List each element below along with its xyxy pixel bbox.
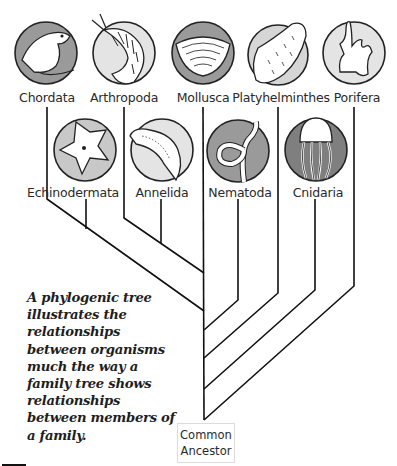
- echinodermata-starfish-icon: [54, 119, 116, 181]
- chordata-frog-icon: [15, 22, 77, 84]
- trunk: [203, 107, 204, 420]
- label-porifera: Porifera: [334, 90, 381, 105]
- label-mollusca: Mollusca: [177, 90, 230, 105]
- cnidaria-jellyfish-icon: [285, 118, 347, 181]
- common-ancestor-label: Common Ancestor: [177, 423, 235, 463]
- label-arthropoda: Arthropoda: [90, 90, 158, 105]
- common-ancestor-line1: Common: [178, 427, 234, 443]
- annelida-segmented-worm-icon: [130, 119, 193, 181]
- branch-nematoda: [204, 199, 238, 330]
- label-nematoda: Nematoda: [208, 185, 271, 200]
- label-cnidaria: Cnidaria: [293, 185, 343, 200]
- caption-text: A phylogenic tree illustrates the relati…: [27, 289, 177, 444]
- common-ancestor-line2: Ancestor: [178, 443, 234, 459]
- porifera-sponge-icon: [323, 22, 385, 84]
- label-echinodermata: Echinodermata: [27, 185, 119, 200]
- label-annelida: Annelida: [135, 185, 188, 200]
- nematoda-roundworm-icon: [207, 120, 269, 182]
- mollusca-clam-shell-icon: [172, 22, 234, 84]
- branch-cnidaria: [204, 199, 315, 389]
- label-platyhelminthes: Platyhelminthes: [232, 90, 330, 105]
- label-chordata: Chordata: [19, 90, 75, 105]
- arthropoda-shrimp-icon: [92, 14, 155, 84]
- platyhelminthes-flatworm-icon: [248, 23, 308, 85]
